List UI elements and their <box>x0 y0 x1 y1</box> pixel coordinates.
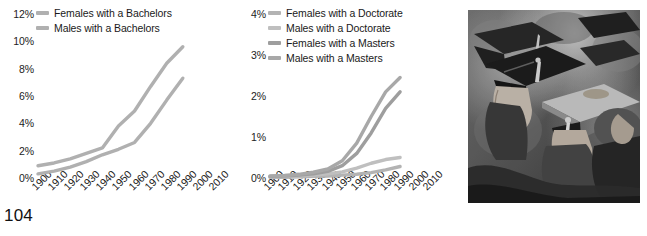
legend-item[interactable]: Males with a Masters <box>268 51 403 65</box>
legend-graduate: Females with a DoctorateMales with a Doc… <box>268 6 403 65</box>
plot-area-bachelors <box>0 0 232 236</box>
legend-item[interactable]: Males with a Bachelors <box>36 21 172 35</box>
page-number: 104 <box>4 206 33 226</box>
legend-label: Females with a Doctorate <box>286 7 403 19</box>
legend-label: Females with a Bachelors <box>54 7 172 19</box>
legend-item[interactable]: Females with a Masters <box>268 36 403 50</box>
legend-swatch-icon <box>268 11 281 15</box>
chart-bachelors-degrees: 0%2%4%6%8%10%12% 19001910192019301940195… <box>0 0 232 236</box>
graduation-ceremony-photo <box>468 10 640 203</box>
legend-label: Females with a Masters <box>286 37 395 49</box>
legend-item[interactable]: Males with a Doctorate <box>268 21 403 35</box>
chart-graduate-degrees: 0%1%2%3%4% 19001910192019301940195019601… <box>232 0 464 236</box>
legend-label: Males with a Bachelors <box>54 22 160 34</box>
legend-swatch-icon <box>268 41 281 45</box>
legend-bachelors: Females with a BachelorsMales with a Bac… <box>36 6 172 35</box>
data-series-line <box>38 78 183 174</box>
legend-swatch-icon <box>268 56 281 60</box>
legend-label: Males with a Doctorate <box>286 22 391 34</box>
photo-illustration <box>468 10 640 203</box>
legend-swatch-icon <box>36 26 49 30</box>
legend-swatch-icon <box>268 26 281 30</box>
page-root: 0%2%4%6%8%10%12% 19001910192019301940195… <box>0 0 647 236</box>
legend-item[interactable]: Females with a Doctorate <box>268 6 403 20</box>
legend-item[interactable]: Females with a Bachelors <box>36 6 172 20</box>
legend-swatch-icon <box>36 11 49 15</box>
legend-label: Males with a Masters <box>286 52 383 64</box>
